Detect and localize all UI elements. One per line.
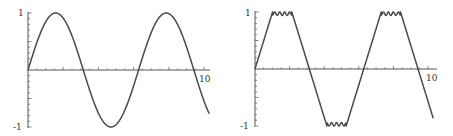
- y-label-bottom: -1: [13, 122, 22, 132]
- y-label-top: 1: [18, 8, 24, 18]
- x-label-max: 10: [426, 73, 438, 83]
- chart-canvas: 1 -1 10 1 -1 10: [0, 0, 453, 136]
- y-label-bottom: -1: [240, 121, 249, 131]
- sine-plot: 1 -1 10: [13, 8, 211, 132]
- x-label-max: 10: [199, 74, 211, 84]
- rippled-wave-plot: 1 -1 10: [240, 8, 438, 131]
- y-label-top: 1: [245, 8, 251, 18]
